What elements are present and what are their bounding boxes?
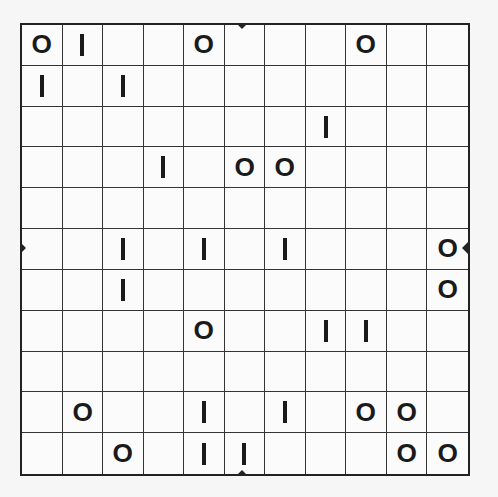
grid-cell[interactable] (144, 392, 185, 433)
grid-cell[interactable] (387, 147, 428, 188)
grid-cell[interactable] (306, 188, 347, 229)
grid-cell[interactable] (225, 392, 266, 433)
grid-cell[interactable] (306, 392, 347, 433)
grid-cell[interactable] (103, 188, 144, 229)
grid-cell[interactable] (387, 188, 428, 229)
grid-cell[interactable] (225, 311, 266, 352)
grid-cell[interactable] (63, 66, 104, 107)
grid-cell[interactable] (184, 188, 225, 229)
grid-cell[interactable]: O (265, 147, 306, 188)
grid-cell[interactable] (265, 66, 306, 107)
grid-cell[interactable]: O (387, 392, 428, 433)
grid-cell[interactable] (346, 433, 387, 474)
grid-cell[interactable] (225, 270, 266, 311)
grid-cell[interactable] (22, 66, 63, 107)
grid-cell[interactable] (265, 107, 306, 148)
grid-cell[interactable] (306, 352, 347, 393)
grid-cell[interactable] (265, 311, 306, 352)
grid-cell[interactable] (63, 147, 104, 188)
grid-cell[interactable] (427, 188, 468, 229)
grid-cell[interactable]: O (184, 25, 225, 66)
grid-cell[interactable] (225, 188, 266, 229)
grid-cell[interactable] (387, 311, 428, 352)
grid-cell[interactable] (265, 352, 306, 393)
grid-cell[interactable] (144, 311, 185, 352)
grid-cell[interactable] (184, 66, 225, 107)
grid-cell[interactable] (346, 66, 387, 107)
grid-cell[interactable] (144, 229, 185, 270)
grid-cell[interactable]: O (427, 270, 468, 311)
grid-cell[interactable] (265, 229, 306, 270)
grid-cell[interactable] (427, 66, 468, 107)
grid-cell[interactable] (144, 270, 185, 311)
grid-cell[interactable] (144, 107, 185, 148)
grid-cell[interactable] (144, 25, 185, 66)
grid-cell[interactable] (225, 107, 266, 148)
grid-cell[interactable] (22, 270, 63, 311)
grid-cell[interactable] (184, 352, 225, 393)
grid-cell[interactable] (265, 270, 306, 311)
grid-cell[interactable] (225, 433, 266, 474)
grid-cell[interactable] (103, 229, 144, 270)
grid-cell[interactable] (225, 352, 266, 393)
grid-cell[interactable] (387, 66, 428, 107)
grid-cell[interactable] (306, 311, 347, 352)
grid-cell[interactable] (103, 66, 144, 107)
grid-cell[interactable] (306, 433, 347, 474)
grid-cell[interactable] (103, 25, 144, 66)
grid-cell[interactable] (22, 311, 63, 352)
grid-cell[interactable] (306, 270, 347, 311)
grid-cell[interactable] (225, 229, 266, 270)
grid-cell[interactable] (144, 433, 185, 474)
grid-cell[interactable] (346, 270, 387, 311)
grid-cell[interactable] (144, 188, 185, 229)
grid-cell[interactable] (306, 147, 347, 188)
grid-cell[interactable] (22, 433, 63, 474)
grid-cell[interactable] (103, 270, 144, 311)
grid-cell[interactable] (103, 107, 144, 148)
grid-cell[interactable] (22, 107, 63, 148)
grid-cell[interactable] (387, 270, 428, 311)
grid-cell[interactable] (387, 352, 428, 393)
grid-cell[interactable] (63, 25, 104, 66)
grid-cell[interactable] (144, 352, 185, 393)
grid-cell[interactable] (63, 229, 104, 270)
grid-cell[interactable] (427, 107, 468, 148)
grid-cell[interactable] (427, 311, 468, 352)
grid-cell[interactable] (265, 392, 306, 433)
grid-cell[interactable] (306, 25, 347, 66)
grid-cell[interactable] (387, 107, 428, 148)
grid-cell[interactable] (346, 352, 387, 393)
grid-cell[interactable] (63, 107, 104, 148)
grid-cell[interactable] (63, 311, 104, 352)
grid-cell[interactable]: O (346, 392, 387, 433)
grid-cell[interactable] (103, 352, 144, 393)
grid-cell[interactable] (22, 188, 63, 229)
grid-cell[interactable]: O (22, 25, 63, 66)
grid-cell[interactable] (22, 392, 63, 433)
grid-cell[interactable]: O (225, 147, 266, 188)
grid-cell[interactable] (346, 107, 387, 148)
grid-cell[interactable] (103, 392, 144, 433)
grid-cell[interactable] (306, 107, 347, 148)
grid-cell[interactable] (103, 147, 144, 188)
grid-cell[interactable] (184, 392, 225, 433)
grid-cell[interactable]: O (184, 311, 225, 352)
grid-cell[interactable] (63, 352, 104, 393)
grid-cell[interactable] (144, 147, 185, 188)
grid-cell[interactable] (306, 66, 347, 107)
grid-cell[interactable] (63, 433, 104, 474)
grid-cell[interactable] (346, 188, 387, 229)
grid-cell[interactable]: O (63, 392, 104, 433)
grid-cell[interactable] (184, 107, 225, 148)
grid-cell[interactable] (265, 188, 306, 229)
grid-cell[interactable] (427, 392, 468, 433)
grid-cell[interactable]: O (103, 433, 144, 474)
grid-cell[interactable] (306, 229, 347, 270)
grid-cell[interactable] (346, 311, 387, 352)
grid-cell[interactable] (184, 433, 225, 474)
grid-cell[interactable] (22, 352, 63, 393)
grid-cell[interactable] (184, 229, 225, 270)
grid-cell[interactable] (346, 147, 387, 188)
grid-cell[interactable] (387, 25, 428, 66)
